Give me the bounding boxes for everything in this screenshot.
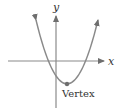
parabola-diagram: y x Vertex xyxy=(0,0,129,110)
y-axis-label: y xyxy=(52,1,60,14)
vertex-label: Vertex xyxy=(61,88,95,99)
vertex-point xyxy=(65,82,69,86)
parabola-curve xyxy=(36,20,98,84)
x-axis-label: x xyxy=(108,55,115,68)
